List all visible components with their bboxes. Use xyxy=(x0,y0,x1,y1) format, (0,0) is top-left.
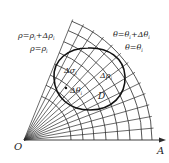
label-delta-sigma: Δσi xyxy=(63,66,77,76)
region-d-boundary xyxy=(54,48,125,110)
svg-text:θ=θi: θ=θi xyxy=(125,43,143,53)
concentric-arc xyxy=(55,64,106,140)
svg-text:Δσi: Δσi xyxy=(63,66,77,76)
svg-text:ρ=ρi+Δρi: ρ=ρi+Δρi xyxy=(17,31,55,41)
origin-label: O xyxy=(14,141,22,152)
svg-text:ρ=ρi: ρ=ρi xyxy=(29,44,48,54)
axis-label: A xyxy=(156,145,164,156)
concentric-arc xyxy=(50,75,94,140)
sample-point xyxy=(65,87,67,89)
label-delta-theta: Δθi xyxy=(69,86,83,96)
label-delta-rho: Δρi xyxy=(99,71,112,81)
polar-grid-diagram: O A D ρ=ρi+Δρi ρ=ρi θ=θi+Δθi θ=θi Δσi Δρ… xyxy=(0,0,169,163)
concentric-arcs xyxy=(42,21,152,140)
svg-text:Δθi: Δθi xyxy=(69,86,83,96)
label-rho-plus: ρ=ρi+Δρi xyxy=(17,31,55,41)
region-label: D xyxy=(97,91,105,101)
radial-ray xyxy=(24,128,154,140)
label-rho: ρ=ρi xyxy=(29,44,48,54)
label-theta-plus: θ=θi+Δθi xyxy=(113,30,150,40)
label-theta: θ=θi xyxy=(125,43,143,53)
svg-text:θ=θi+Δθi: θ=θi+Δθi xyxy=(113,30,150,40)
axis-arrow-icon xyxy=(159,138,166,143)
svg-text:Δρi: Δρi xyxy=(99,71,112,81)
